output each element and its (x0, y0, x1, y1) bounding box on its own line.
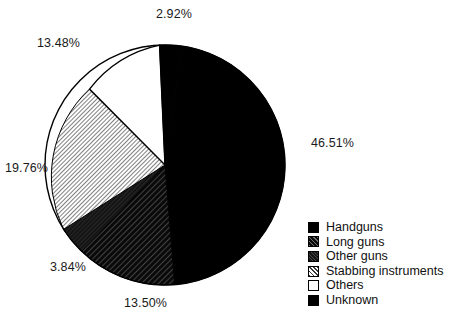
legend-item-unknown: Unknown (308, 293, 452, 308)
slice-label-unknown: 2.92% (156, 7, 192, 21)
legend-swatch-dark-diagonal-hatch (308, 236, 319, 247)
pie-chart-figure: 2.92% 13.48% 19.76% 3.84% 13.50% 46.51% … (0, 0, 452, 325)
pie-slice-handguns (165, 46, 285, 284)
slice-label-other-guns: 3.84% (50, 260, 86, 274)
legend-label-stabbing-instruments: Stabbing instruments (326, 264, 443, 279)
slice-label-others: 13.48% (37, 36, 80, 50)
legend-item-others: Others (308, 278, 452, 293)
legend-label-unknown: Unknown (326, 293, 378, 308)
chart-legend: Handguns Long guns Other guns Stabbing i… (308, 220, 452, 308)
legend-swatch-white (308, 280, 319, 291)
legend-item-other-guns: Other guns (308, 249, 452, 264)
legend-item-handguns: Handguns (308, 220, 452, 235)
legend-label-handguns: Handguns (326, 220, 383, 235)
legend-item-stabbing-instruments: Stabbing instruments (308, 264, 452, 279)
legend-swatch-light-diagonal-hatch (308, 266, 319, 277)
slice-label-long-guns: 13.50% (124, 296, 167, 310)
slice-label-stabbing-instruments: 19.76% (5, 161, 48, 175)
slice-label-handguns: 46.51% (311, 136, 354, 150)
legend-swatch-solid-black (308, 222, 319, 233)
legend-label-long-guns: Long guns (326, 235, 384, 250)
legend-label-other-guns: Other guns (326, 249, 388, 264)
legend-label-others: Others (326, 278, 364, 293)
legend-swatch-solid-black-unknown (308, 295, 319, 306)
legend-swatch-very-dark-solid (308, 251, 319, 262)
legend-item-long-guns: Long guns (308, 235, 452, 250)
